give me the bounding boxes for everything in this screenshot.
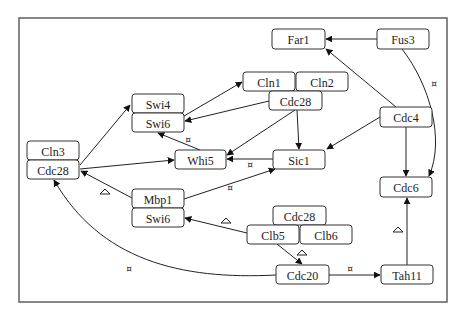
x-mark-icon: ¤ [431,79,437,89]
node-label: Cln1 [257,76,280,90]
edge-cdc28-whi5 [227,110,295,155]
triangle-mark-icon [221,218,231,223]
nodes-layer: Far1Fus3Cln1Cln2Cdc28Swi4Swi6Cdc4Whi5Sic… [27,29,433,284]
x-mark-icon: ¤ [185,135,191,145]
node-label: Cdc28 [280,95,311,109]
node-label: Cdc6 [393,181,418,195]
node-swi4: Swi4 [132,94,184,113]
node-cln3: Cln3 [27,141,79,160]
node-far1: Far1 [272,29,325,49]
node-cdc28_bot: Cdc28 [273,206,326,225]
node-label: Swi6 [146,117,171,131]
node-sic1: Sic1 [273,150,325,169]
node-label: Cln3 [41,145,64,159]
node-label: Cdc28 [37,164,68,178]
node-label: Cdc4 [393,111,418,125]
node-swi6_bot: Swi6 [132,208,184,227]
node-tah11: Tah11 [381,265,433,284]
edge-whi5-swi6 [158,133,200,150]
edge-cdc4-sic1 [327,117,380,149]
node-clb6: Clb6 [300,225,352,244]
node-label: Clb5 [261,229,284,243]
edge-cdc28-swi6 [185,101,269,121]
node-label: Mbp1 [144,193,173,207]
node-mbp1: Mbp1 [132,189,184,208]
node-label: Fus3 [391,33,414,47]
node-label: Tah11 [392,269,421,283]
triangle-mark-icon [100,189,110,194]
x-mark-icon: ¤ [347,264,353,274]
node-cdc28_top: Cdc28 [269,91,322,110]
edge-cdc28-swi4 [80,105,130,165]
x-mark-icon: ¤ [227,183,233,193]
node-cdc20: Cdc20 [276,265,329,284]
node-cdc28_left: Cdc28 [27,160,79,179]
node-label: Swi4 [146,98,171,112]
node-cln2: Cln2 [296,72,348,91]
node-swi6_top: Swi6 [132,113,184,132]
node-cdc4: Cdc4 [380,107,432,127]
node-clb5: Clb5 [247,225,299,244]
node-fus3: Fus3 [377,29,429,49]
node-label: Cdc28 [284,210,315,224]
x-mark-icon: ¤ [247,160,253,170]
edge-swi6-cln1 [184,82,242,116]
x-mark-icon: ¤ [126,264,132,274]
edge-cdc28-whi5-left [80,160,174,169]
triangle-mark-icon [393,227,403,232]
node-label: Swi6 [146,212,171,226]
node-cln1: Cln1 [243,72,295,91]
triangle-mark-icon [297,250,307,255]
node-cdc6: Cdc6 [380,177,432,197]
pathway-diagram: ¤ ¤ ¤ ¤ ¤ ¤ Far1Fus3Cln1Cln2Cdc28Swi4Swi… [0,0,463,315]
node-label: Whi5 [187,154,214,168]
edge-clb5-swi6 [185,218,247,233]
node-whi5: Whi5 [175,150,226,169]
node-label: Cdc20 [287,269,318,283]
node-label: Far1 [288,33,310,47]
edge-cdc28-sic1 [297,110,299,149]
node-label: Sic1 [288,154,309,168]
diagram-frame [19,18,447,302]
node-label: Cln2 [310,76,333,90]
node-label: Clb6 [314,229,337,243]
